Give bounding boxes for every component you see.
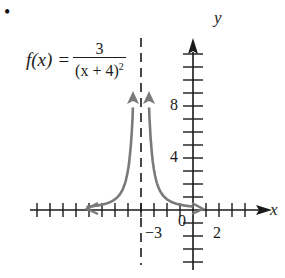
curve-left-branch [86,108,132,207]
y-tick-label-4: 4 [170,148,178,166]
y-axis [183,38,203,270]
y-axis-label: y [214,8,222,28]
curve-arrow-up-right-icon [143,91,155,104]
y-tick-label-8: 8 [170,96,178,114]
x-axis-label: x [270,200,278,220]
x-tick-label-neg3: −3 [145,224,162,242]
curve-arrow-up-left-icon [127,91,139,104]
x-tick-label-2: 2 [213,224,221,242]
y-axis-arrow-icon [188,38,198,54]
x-axis [30,203,272,217]
function-graph [0,0,285,278]
x-tick-label-0: 0 [178,212,186,230]
